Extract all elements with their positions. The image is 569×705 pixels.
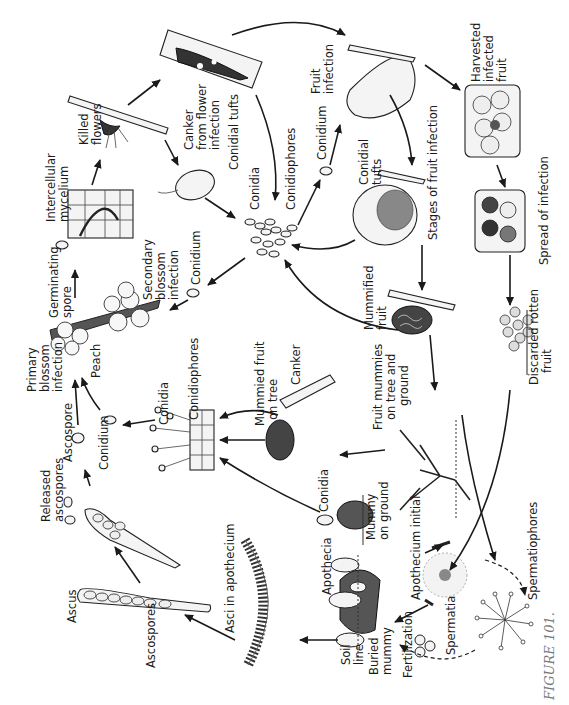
conidium-top-illustration <box>320 167 332 175</box>
label-conidial-tufts-top: Conidial tufts <box>227 94 241 170</box>
figure-caption: FIGURE 101. <box>542 612 557 701</box>
fruit-infection-illustration <box>347 45 415 118</box>
label-soil-line: Soilline <box>339 644 366 665</box>
label-secondary-blossom-infection: Secondaryblossominfection <box>141 239 181 300</box>
label-canker: Canker <box>289 344 303 385</box>
label-released-ascospores: Releasedascospores <box>39 458 66 522</box>
label-ascospore: Ascospore <box>61 403 75 462</box>
label-apothecia: Apothecia <box>320 537 334 595</box>
label-asci-in-apothecium: Asci in apothecium <box>223 524 237 633</box>
label-stages-fruit-infection: Stages of fruit infection <box>426 105 440 240</box>
harvested-basket-illustration <box>465 85 520 157</box>
label-fruit-mummies: Fruit mummieson tree andground <box>371 344 411 430</box>
label-conidiophores-left: Conidiophores <box>187 338 201 420</box>
label-conidium-top: Conidium <box>315 105 329 160</box>
label-harvested-infected-fruit: Harvestedinfectedfruit <box>469 23 509 82</box>
spermatiophores-illustration <box>475 592 533 650</box>
mummified-fruit-illustration <box>388 290 455 334</box>
label-conidial-tufts-fruit: Conidialtufts <box>357 139 384 185</box>
label-conidia-center: Conidia <box>248 167 262 210</box>
label-discarded-rotten-fruit: Discarded rottenfruit <box>527 289 554 385</box>
label-fruit-infection: Fruitinfection <box>309 44 336 94</box>
infected-bud-illustration <box>158 165 219 205</box>
canker-branch-illustration <box>160 30 262 88</box>
label-spermatia: Spermatia <box>444 596 458 655</box>
label-fertilization: Fertilization <box>401 611 415 678</box>
label-buried-mummy: Buriedmummy <box>367 627 394 675</box>
label-conidia-left: Conidia <box>157 382 171 425</box>
label-conidium-mid: Conidium <box>189 230 203 285</box>
label-apothecium-initial: Apothecium initial <box>409 496 423 600</box>
disease-cycle-figure: Killedflowers Cankerfrom flowerinfection… <box>0 0 569 705</box>
conidium-mid-illustration <box>187 289 199 297</box>
label-ascospores: Ascospores <box>144 603 158 668</box>
label-spread-of-infection: Spread of infection <box>537 156 551 265</box>
diagram-canvas: Killedflowers Cankerfrom flowerinfection… <box>0 0 569 705</box>
label-peach: Peach <box>89 344 103 378</box>
label-canker-flower-infection: Cankerfrom flowerinfection <box>182 84 222 150</box>
conidia-chains-center-illustration <box>245 219 297 257</box>
label-mummified-fruit: Mummifiedfruit <box>362 266 389 330</box>
label-intercellular-mycelium: Intercellularmycelium <box>44 153 71 222</box>
asci-in-apothecium-illustration <box>245 540 268 665</box>
spread-basket-illustration <box>475 190 525 252</box>
label-conidia-bottom: Conidia <box>317 469 331 512</box>
label-conidium-left: Conidium <box>97 415 111 470</box>
label-primary-blossom-infection: Primaryblossominfection <box>25 342 65 392</box>
label-ascus: Ascus <box>65 590 79 623</box>
label-killed-flowers: Killedflowers <box>77 104 104 145</box>
label-spermatiophores: Spermatiophores <box>526 502 540 600</box>
label-mummied-fruit-on-tree: Mummied fruiton tree <box>253 341 280 426</box>
label-mummy-on-ground: Mummyon ground <box>364 481 391 540</box>
label-germinating-spore: Germinatingspore <box>47 246 74 318</box>
label-conidiophores-center: Conidiophores <box>284 128 298 210</box>
